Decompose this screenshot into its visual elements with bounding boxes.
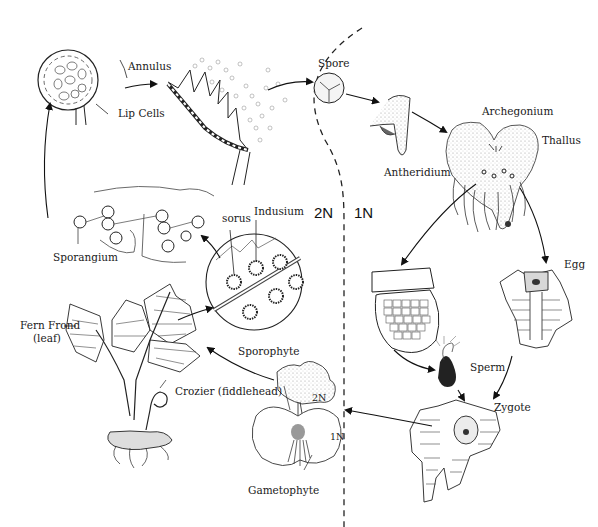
label-sporangium: Sporangium bbox=[53, 252, 118, 263]
label-indusium: Indusium bbox=[254, 206, 304, 217]
label-sorus: sorus bbox=[222, 213, 251, 224]
label-sporophyte: Sporophyte bbox=[238, 346, 299, 357]
diagram-artwork bbox=[0, 0, 598, 527]
label-lip-cells: Lip Cells bbox=[118, 108, 165, 119]
arrow-sporangium-to-annulus bbox=[125, 84, 156, 88]
sperm-icon bbox=[436, 336, 460, 387]
arrow-thallus-to-antheridium bbox=[402, 184, 476, 264]
label-sperm: Sperm bbox=[470, 362, 505, 373]
label-diploid-2n: 2N bbox=[314, 205, 333, 220]
antheridium-detail-icon bbox=[372, 268, 439, 353]
arrow-thallus-to-archegonium bbox=[520, 188, 546, 262]
label-egg: Egg bbox=[564, 259, 585, 270]
open-sporangium-icon bbox=[38, 50, 127, 125]
label-haploid-1n: 1N bbox=[354, 205, 373, 220]
arrow-antheridium-to-sperm bbox=[394, 350, 434, 370]
arrow-sporangia-to-sporangium-open bbox=[44, 104, 50, 218]
arrow-sperm-to-zygote bbox=[458, 390, 464, 400]
fern-life-cycle-diagram: Annulus Lip Cells Spore Archegonium Thal… bbox=[0, 0, 598, 527]
arrow-spore-to-germination bbox=[346, 94, 378, 102]
label-archegonium: Archegonium bbox=[482, 106, 553, 117]
label-spore: Spore bbox=[318, 58, 349, 69]
spore-icon bbox=[314, 73, 344, 103]
label-gametophyte-1n: 1N bbox=[330, 432, 344, 442]
annulus-spore-release-icon bbox=[168, 58, 287, 185]
label-antheridium: Antheridium bbox=[384, 167, 451, 178]
label-fern-frond: Fern Frond bbox=[20, 320, 80, 331]
label-zygote: Zygote bbox=[494, 402, 531, 413]
label-young-sporophyte-2n: 2N bbox=[312, 393, 326, 403]
archegonium-egg-icon bbox=[500, 270, 572, 348]
germinating-spore-icon bbox=[370, 95, 410, 155]
mature-fern-icon bbox=[64, 284, 200, 468]
arrow-germination-to-thallus bbox=[412, 112, 446, 132]
sori-closeup-icon bbox=[206, 220, 303, 330]
arrow-annulus-to-spore bbox=[268, 82, 312, 90]
label-crozier: Crozier (fiddlehead) bbox=[175, 386, 282, 397]
zygote-icon bbox=[410, 400, 500, 502]
label-annulus: Annulus bbox=[128, 61, 171, 72]
label-thallus: Thallus bbox=[542, 135, 581, 146]
thallus-icon bbox=[446, 122, 538, 232]
label-fern-frond-sub: (leaf) bbox=[33, 333, 61, 344]
label-gametophyte: Gametophyte bbox=[248, 485, 319, 496]
